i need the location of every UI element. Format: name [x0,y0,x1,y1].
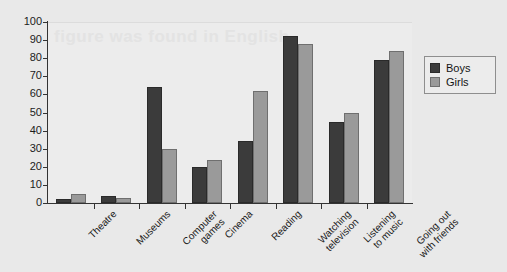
y-axis-tick-label: 60 [2,88,42,99]
bar-boys-3 [192,167,207,203]
legend: Boys Girls [424,56,496,94]
x-axis-label-1: Museums [135,209,173,247]
y-axis-tick-label: 70 [2,70,42,81]
y-axis-tick-label: 90 [2,34,42,45]
legend-label-girls: Girls [446,77,469,88]
bar-boys-1 [101,196,116,203]
legend-label-boys: Boys [446,63,470,74]
bar-girls-4 [253,91,268,203]
y-axis-tick-labels: 0102030405060708090100 [0,0,42,272]
y-axis-tick-label: 20 [2,161,42,172]
y-axis-tick-label: 10 [2,179,42,190]
y-axis-tick-label: 30 [2,143,42,154]
x-axis-label-0: Theatre [87,209,119,241]
y-axis-tick-label: 100 [2,16,42,27]
legend-swatch-girls-icon [430,77,440,87]
bar-boys-6 [329,122,344,203]
y-axis-tick-label: 80 [2,52,42,63]
x-axis-label-6: Listening to music [361,209,404,252]
bar-girls-0 [71,194,86,203]
bar-girls-3 [207,160,222,203]
y-axis-tick-label: 0 [2,197,42,208]
x-axis-category-labels: TheatreMuseumsComputer gamesCinemaReadin… [48,203,412,272]
x-axis-label-3: Cinema [223,209,255,241]
y-axis-tick-label: 40 [2,125,42,136]
legend-item-girls: Girls [430,75,490,89]
bar-boys-2 [147,87,162,203]
x-axis-label-7: Going out with friends [410,209,461,260]
bars-layer [48,22,412,203]
bar-girls-6 [344,113,359,204]
x-axis-label-4: Reading [270,209,304,243]
bar-girls-5 [298,44,313,203]
bar-chart: figure was found in English 010203040506… [0,0,507,272]
bar-girls-7 [389,51,404,203]
bar-boys-7 [374,60,389,203]
legend-swatch-boys-icon [430,63,440,73]
y-axis-tick-label: 50 [2,107,42,118]
x-axis-label-2: Computer games [181,209,227,255]
bar-girls-2 [162,149,177,203]
x-axis-label-5: Watching television [316,209,360,253]
legend-item-boys: Boys [430,61,490,75]
bar-boys-5 [283,36,298,203]
bar-boys-4 [238,141,253,203]
